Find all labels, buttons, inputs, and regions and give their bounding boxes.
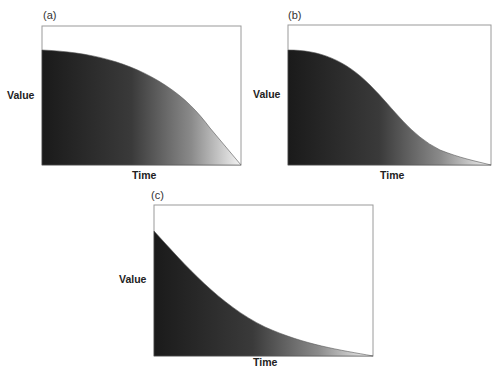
figure-canvas	[0, 0, 497, 373]
x-axis-label-b: Time	[380, 169, 404, 181]
panel-label-c: (c)	[151, 189, 164, 201]
y-axis-label-a: Value	[7, 89, 34, 101]
panel-c	[154, 205, 373, 356]
x-axis-label-c: Time	[253, 356, 277, 368]
y-axis-label-c: Value	[119, 273, 146, 285]
panel-a	[42, 26, 241, 165]
panel-b	[288, 25, 491, 165]
panel-label-b: (b)	[288, 9, 301, 21]
x-axis-label-a: Time	[132, 169, 156, 181]
y-axis-label-b: Value	[253, 88, 280, 100]
panel-label-a: (a)	[43, 9, 56, 21]
